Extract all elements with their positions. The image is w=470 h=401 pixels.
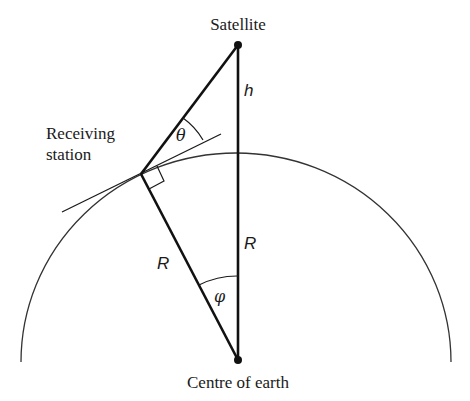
radius-right-label: R	[244, 234, 256, 253]
theta-arc	[183, 118, 203, 140]
receiving-station-label-line2: station	[46, 145, 92, 164]
phi-label: φ	[214, 287, 226, 306]
centre-point	[234, 356, 242, 364]
station-satellite-line	[141, 45, 238, 174]
height-label: h	[244, 81, 253, 100]
satellite-diagram: Satellite Receiving station Centre of ea…	[0, 0, 470, 401]
centre-label: Centre of earth	[187, 373, 289, 392]
satellite-point	[234, 41, 242, 49]
phi-arc	[199, 276, 238, 285]
station-centre-line	[141, 174, 238, 360]
earth-surface-arc	[21, 153, 451, 362]
radius-left-label: R	[157, 254, 169, 273]
receiving-station-label-line1: Receiving	[46, 124, 115, 143]
satellite-label: Satellite	[210, 15, 266, 34]
theta-label: θ	[176, 126, 186, 145]
